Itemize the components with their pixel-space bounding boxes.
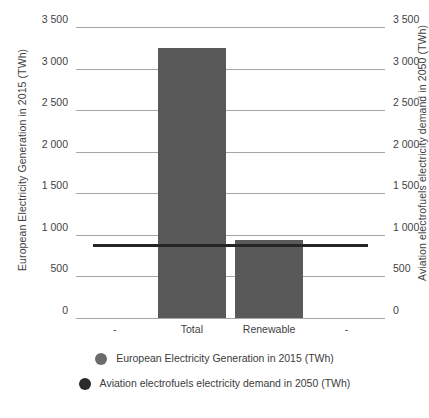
y-axis-left-tick-label: 1 500	[42, 180, 68, 191]
y-axis-left-tick-label: 0	[62, 305, 68, 316]
y-axis-right-tick-label: 3 000	[393, 56, 419, 67]
y-axis-left-tick-label: 2 500	[42, 97, 68, 108]
y-axis-left-tick-label: 3 500	[42, 14, 68, 25]
y-axis-left-title: European Electricity Generation in 2015 …	[16, 61, 28, 271]
plot-area: 3 5003 0002 5002 0001 5001 0005000 3 500…	[76, 27, 385, 318]
chart-container: European Electricity Generation in 2015 …	[0, 0, 429, 418]
y-axis-right-title: Aviation electrofuels electricity demand…	[416, 51, 428, 281]
gridline	[76, 27, 385, 28]
y-axis-left-tick-label: 3 000	[42, 56, 68, 67]
bar-total	[158, 48, 226, 318]
legend-item-label: Aviation electrofuels electricity demand…	[100, 377, 351, 390]
x-axis-label-1: Total	[181, 322, 203, 336]
y-axis-right-tick-label: 500	[393, 263, 411, 274]
legend-item[interactable]: European Electricity Generation in 2015 …	[0, 352, 429, 365]
y-axis-right-tick-label: 3 500	[393, 14, 419, 25]
x-axis-category-labels: -TotalRenewable-	[76, 322, 385, 340]
gridline	[76, 69, 385, 70]
y-axis-right-tick-label: 1 000	[393, 222, 419, 233]
threshold-line-series	[93, 244, 369, 247]
y-axis-right-tick-label: 2 500	[393, 97, 419, 108]
gridline	[76, 110, 385, 111]
x-axis-label-3: -	[345, 322, 349, 336]
legend-item-label: European Electricity Generation in 2015 …	[116, 352, 334, 365]
y-axis-left-tick-label: 2 000	[42, 139, 68, 150]
x-axis-label-2: Renewable	[243, 322, 296, 336]
y-axis-left-tick-label: 500	[50, 263, 68, 274]
legend-item[interactable]: Aviation electrofuels electricity demand…	[0, 377, 429, 390]
gridline	[76, 235, 385, 236]
y-axis-right-tick-label: 2 000	[393, 139, 419, 150]
circle-marker-icon	[79, 378, 91, 390]
gridline	[76, 152, 385, 153]
y-axis-right-tick-label: 1 500	[393, 180, 419, 191]
gridline	[76, 193, 385, 194]
y-axis-right-tick-label: 0	[393, 305, 399, 316]
gridline	[76, 276, 385, 277]
bar-renewable	[235, 240, 303, 318]
chart-legend: European Electricity Generation in 2015 …	[0, 352, 429, 402]
circle-marker-icon	[95, 353, 107, 365]
x-axis-label-0: -	[113, 322, 117, 336]
gridline	[76, 318, 385, 319]
y-axis-left-tick-label: 1 000	[42, 222, 68, 233]
